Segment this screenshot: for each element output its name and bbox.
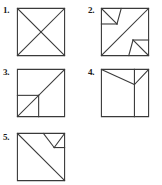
figure-5-notch-right-arm <box>54 133 64 147</box>
figure-5-canvas <box>16 132 66 182</box>
figure-5-diagonal-main <box>17 133 64 180</box>
figure-sheet: 1.2.3.4.5. <box>0 0 162 185</box>
figure-5-notch-left-arm <box>43 133 54 147</box>
figure-5: 5. <box>0 0 162 185</box>
figure-5-label: 5. <box>3 133 9 142</box>
